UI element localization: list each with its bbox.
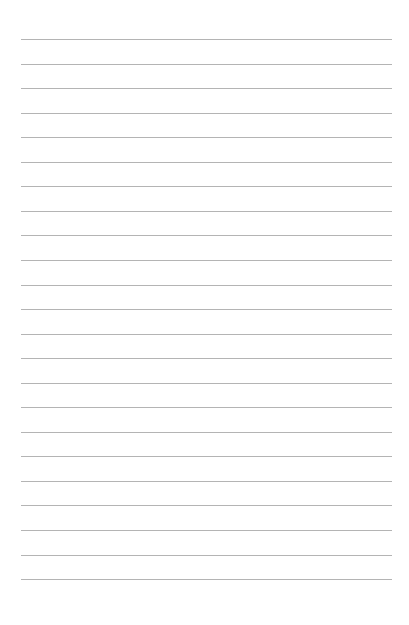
lined-paper-page	[0, 0, 409, 625]
ruled-line	[21, 383, 392, 384]
ruled-line	[21, 481, 392, 482]
ruled-line	[21, 309, 392, 310]
ruled-line	[21, 530, 392, 531]
ruled-line	[21, 555, 392, 556]
ruled-line	[21, 235, 392, 236]
ruled-line	[21, 260, 392, 261]
ruled-line	[21, 407, 392, 408]
ruled-line	[21, 64, 392, 65]
ruled-line	[21, 579, 392, 580]
ruled-line	[21, 211, 392, 212]
ruled-line	[21, 186, 392, 187]
ruled-line	[21, 334, 392, 335]
ruled-line	[21, 88, 392, 89]
ruled-line	[21, 137, 392, 138]
ruled-line	[21, 505, 392, 506]
ruled-line	[21, 113, 392, 114]
ruled-line	[21, 358, 392, 359]
ruled-line	[21, 39, 392, 40]
ruled-line	[21, 285, 392, 286]
ruled-line	[21, 162, 392, 163]
ruled-line	[21, 432, 392, 433]
ruled-line	[21, 456, 392, 457]
